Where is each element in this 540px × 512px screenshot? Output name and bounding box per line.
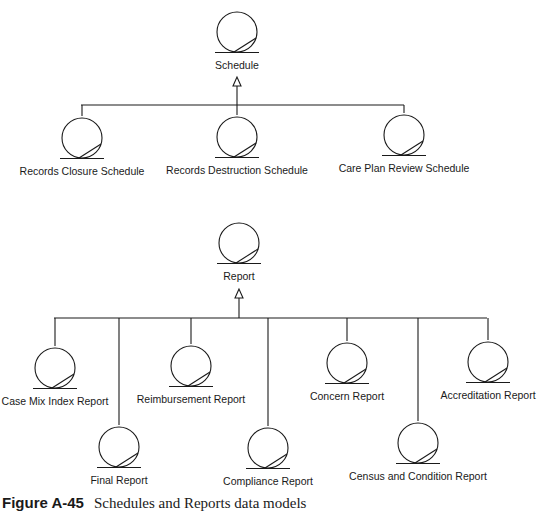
object-label: Accreditation Report xyxy=(440,389,535,401)
object-icon xyxy=(466,342,510,383)
report-parent-icon xyxy=(217,223,261,264)
object-label: Records Closure Schedule xyxy=(20,165,145,177)
object-label: Concern Report xyxy=(310,390,384,402)
schedule-parent-label: Schedule xyxy=(215,59,259,71)
object-label: Census and Condition Report xyxy=(349,470,487,482)
report-parent-label: Report xyxy=(223,270,255,282)
object-label: Reimbursement Report xyxy=(137,393,246,405)
object-label: Case Mix Index Report xyxy=(2,395,109,407)
schedule-parent-icon xyxy=(215,12,259,53)
object-icon xyxy=(396,423,440,464)
figure-caption: Figure A-45Schedules and Reports data mo… xyxy=(2,494,306,512)
object-label: Final Report xyxy=(90,474,147,486)
object-icon xyxy=(382,115,426,156)
object-label: Records Destruction Schedule xyxy=(166,164,308,176)
object-label: Care Plan Review Schedule xyxy=(339,162,470,174)
schedule-inheritance-arrow-icon xyxy=(233,77,241,86)
report-inheritance-arrow-icon xyxy=(235,289,243,298)
object-icon xyxy=(246,428,290,469)
object-icon xyxy=(33,348,77,389)
object-icon xyxy=(169,346,213,387)
object-icon xyxy=(215,117,259,158)
figure-title: Schedules and Reports data models xyxy=(94,495,306,511)
figure-number: Figure A-45 xyxy=(2,494,84,511)
object-icon xyxy=(97,427,141,468)
object-icon xyxy=(325,343,369,384)
object-label: Compliance Report xyxy=(223,475,313,487)
object-icon xyxy=(60,118,104,159)
